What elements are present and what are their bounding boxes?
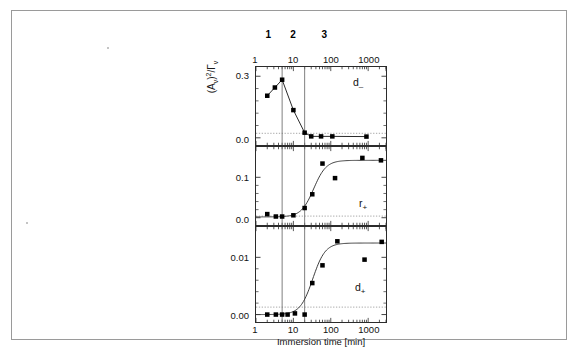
region-label-3: 3 — [316, 29, 332, 40]
top-tick-10: 10 — [288, 54, 299, 65]
bottom-axis-tick-labels: 1 10 100 1000 — [255, 324, 387, 336]
y-tick-r-plus-0: 0.1 — [236, 172, 249, 183]
scan-artifact-speck — [26, 222, 28, 224]
y-tick-d-minus-0: 0.3 — [236, 70, 249, 81]
bottom-tick-10: 10 — [288, 324, 299, 335]
panel-d-plus-plot — [256, 227, 386, 322]
panel-r-plus-plot — [256, 147, 386, 225]
top-tick-100: 100 — [323, 54, 339, 65]
region-label-row: 1 2 3 — [207, 29, 402, 43]
y-tick-d-minus-1: 0.0 — [236, 133, 249, 144]
top-tick-1: 1 — [252, 54, 257, 65]
series-label-d-minus: d– — [353, 76, 363, 91]
top-axis-tick-labels: 1 10 100 1000 — [255, 54, 387, 66]
bottom-tick-100: 100 — [323, 324, 339, 335]
figure-frame: (Av)2/Γv 1 2 3 1 10 100 1000 0.3 0.0 — [11, 10, 567, 340]
bottom-tick-1: 1 — [252, 324, 257, 335]
scan-artifact-speck — [107, 47, 109, 49]
series-label-d-plus: d+ — [355, 281, 366, 296]
region-label-2: 2 — [285, 29, 301, 40]
bottom-tick-1000: 1000 — [358, 324, 379, 335]
y-tick-labels-d-plus: 0.01 0.00 — [207, 226, 253, 323]
y-tick-labels-r-plus: 0.1 0.0 — [207, 146, 253, 226]
region-label-1: 1 — [260, 29, 276, 40]
y-tick-labels-d-minus: 0.3 0.0 — [207, 66, 253, 146]
x-axis-title: Immersion time [min] — [255, 336, 387, 347]
series-label-r-plus: r+ — [359, 197, 367, 212]
chart-figure: (Av)2/Γv 1 2 3 1 10 100 1000 0.3 0.0 — [207, 29, 402, 344]
top-tick-1000: 1000 — [358, 54, 379, 65]
panel-d-plus — [255, 226, 387, 323]
y-tick-d-plus-1: 0.00 — [231, 310, 250, 321]
panel-r-plus — [255, 146, 387, 226]
panel-d-minus — [255, 66, 387, 146]
y-tick-d-plus-0: 0.01 — [231, 251, 250, 262]
y-tick-r-plus-1: 0.0 — [236, 213, 249, 224]
panel-d-minus-plot — [256, 67, 386, 145]
